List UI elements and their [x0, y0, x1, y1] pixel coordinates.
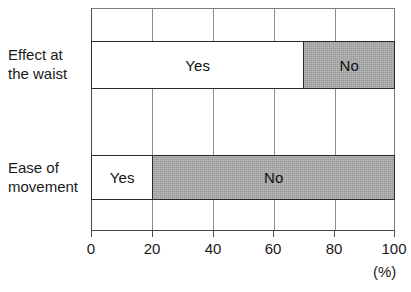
tick-mark-20: [152, 231, 153, 237]
bar-segment-no[interactable]: No: [152, 156, 394, 199]
tick-label-20: 20: [130, 240, 174, 257]
bar-segment-yes[interactable]: Yes: [92, 156, 152, 199]
bar-segment-yes-label: Yes: [110, 169, 135, 186]
tick-label-60: 60: [251, 240, 295, 257]
tick-label-80: 80: [312, 240, 356, 257]
bar-segment-yes[interactable]: Yes: [92, 42, 303, 88]
tick-mark-0: [91, 231, 92, 237]
bar-effect-at-the-waist[interactable]: Yes No: [91, 41, 395, 89]
bar-segment-no-label: No: [339, 57, 359, 74]
figure-caption-partial: [35, 286, 365, 292]
category-label-effect-at-the-waist: Effect at the waist: [8, 45, 88, 83]
tick-label-100: 100: [372, 240, 411, 257]
bar-segment-no-label: No: [264, 169, 284, 186]
tick-label-40: 40: [191, 240, 235, 257]
tick-mark-40: [213, 231, 214, 237]
axis-unit-label: (%): [373, 263, 396, 280]
bar-segment-no[interactable]: No: [303, 42, 394, 88]
tick-label-0: 0: [69, 240, 113, 257]
bar-segment-yes-label: Yes: [185, 57, 210, 74]
chart-container: Yes No Yes No Effect at the waist Ease o…: [0, 0, 411, 292]
bar-ease-of-movement[interactable]: Yes No: [91, 155, 395, 200]
category-label-ease-of-movement: Ease of movement: [8, 158, 88, 196]
tick-mark-100: [394, 231, 395, 237]
tick-mark-60: [273, 231, 274, 237]
tick-mark-80: [334, 231, 335, 237]
